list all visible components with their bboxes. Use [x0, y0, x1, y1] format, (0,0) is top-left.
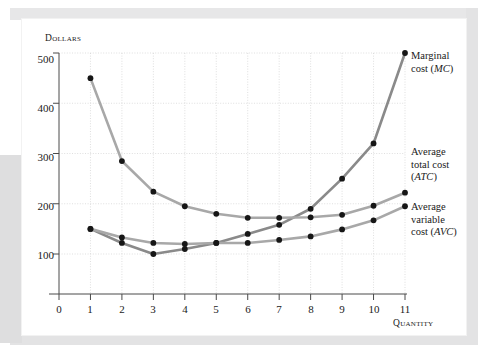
x-tick-label-5: 5 — [206, 303, 226, 315]
data-point-mc — [339, 176, 345, 182]
x-tick-label-3: 3 — [143, 303, 163, 315]
data-point-atc — [245, 215, 251, 221]
data-point-atc — [371, 203, 377, 209]
data-point-atc — [308, 214, 314, 220]
data-point-avc — [150, 240, 156, 246]
annotation-mc-line2-text: cost ( — [411, 63, 434, 74]
x-tick-label-4: 4 — [175, 303, 195, 315]
data-point-avc — [276, 237, 282, 243]
y-tick-label-300: 300 — [28, 151, 54, 163]
data-point-avc — [308, 234, 314, 240]
y-tick-label-400: 400 — [28, 102, 54, 114]
x-tick-label-0: 0 — [49, 303, 69, 315]
figure-page: 100 200 300 400 500 0 1 2 3 4 5 6 7 8 9 … — [0, 0, 488, 361]
data-point-atc — [88, 75, 94, 81]
data-point-mc — [276, 222, 282, 228]
data-point-mc — [119, 240, 125, 246]
chart-axes — [49, 53, 407, 300]
y-axis-title: Dollars — [45, 33, 81, 43]
x-tick-label-2: 2 — [112, 303, 132, 315]
annotation-atc-line3: (ATC) — [411, 171, 449, 184]
annotation-atc-line2: total cost — [411, 159, 449, 172]
annotation-atc-abbr: ATC — [415, 171, 434, 182]
x-tick-label-10: 10 — [364, 303, 384, 315]
data-point-avc — [182, 241, 188, 247]
annotation-mc-line2: cost (MC) — [411, 63, 453, 76]
x-tick-label-1: 1 — [80, 303, 100, 315]
data-point-avc — [88, 226, 94, 232]
annotation-avc-line1: Average — [411, 201, 457, 214]
data-point-avc — [402, 203, 408, 209]
data-point-atc — [119, 158, 125, 164]
data-point-avc — [371, 217, 377, 223]
data-point-atc — [182, 203, 188, 209]
data-point-mc — [308, 206, 314, 212]
annotation-avc-line3-text: cost ( — [411, 226, 434, 237]
x-tick-label-11: 11 — [395, 303, 415, 315]
annotation-marginal-cost: Marginal cost (MC) — [411, 50, 453, 75]
data-point-avc — [245, 240, 251, 246]
chart-data-points — [88, 50, 408, 257]
data-point-mc — [182, 246, 188, 252]
data-point-mc — [245, 231, 251, 237]
annotation-atc-paren-close: ) — [433, 171, 437, 182]
data-point-atc — [213, 211, 219, 217]
annotation-mc-abbr: MC — [434, 63, 450, 74]
data-point-avc — [119, 235, 125, 241]
annotation-avc-line2: variable — [411, 214, 457, 227]
y-tick-label-100: 100 — [28, 249, 54, 261]
annotation-avc-abbr: AVC — [434, 226, 453, 237]
data-point-mc — [150, 251, 156, 257]
x-tick-label-7: 7 — [269, 303, 289, 315]
data-point-avc — [213, 240, 219, 246]
annotation-avc-line3: cost (AVC) — [411, 226, 457, 239]
annotation-average-total-cost: Average total cost (ATC) — [411, 146, 449, 184]
data-point-avc — [339, 226, 345, 232]
data-point-mc — [371, 141, 377, 147]
y-tick-label-500: 500 — [28, 53, 54, 65]
x-tick-label-6: 6 — [238, 303, 258, 315]
annotation-mc-line1: Marginal — [411, 50, 453, 63]
annotation-atc-line1: Average — [411, 146, 449, 159]
x-axis-title: Quantity — [393, 318, 433, 328]
y-tick-label-200: 200 — [28, 200, 54, 212]
x-tick-label-9: 9 — [332, 303, 352, 315]
data-point-atc — [402, 190, 408, 196]
data-point-atc — [276, 215, 282, 221]
chart-gridlines — [59, 53, 405, 294]
data-point-mc — [402, 50, 408, 56]
annotation-avc-line3-end: ) — [453, 226, 457, 237]
cost-curves-chart: 100 200 300 400 500 0 1 2 3 4 5 6 7 8 9 … — [0, 0, 488, 361]
data-point-atc — [150, 189, 156, 195]
annotation-mc-line2-end: ) — [450, 63, 454, 74]
data-point-atc — [339, 212, 345, 218]
annotation-average-variable-cost: Average variable cost (AVC) — [411, 201, 457, 239]
x-tick-label-8: 8 — [301, 303, 321, 315]
